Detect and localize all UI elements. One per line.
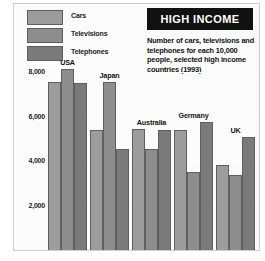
bar-germany-televisions [187, 172, 200, 250]
bar-japan-televisions [103, 82, 116, 250]
bar-usa-telephones [74, 83, 87, 250]
bar-uk-cars [216, 165, 229, 250]
bar-australia-televisions [145, 149, 158, 250]
bar-japan-telephones [116, 149, 129, 250]
bar-germany-cars [174, 130, 187, 250]
bar-uk-telephones [242, 137, 255, 250]
bar-australia-cars [132, 129, 145, 250]
category-label-germany: Germany [166, 111, 221, 120]
bar-germany-telephones [200, 122, 213, 250]
category-label-uk: UK [208, 126, 263, 135]
bar-australia-telephones [158, 130, 171, 250]
bar-japan-cars [90, 130, 103, 250]
bar-usa-cars [48, 82, 61, 250]
bar-usa-televisions [61, 69, 74, 250]
category-label-japan: Japan [82, 71, 137, 80]
bar-uk-televisions [229, 175, 242, 250]
plot-area: 2,0004,0006,0008,000 USAJapanAustraliaGe… [14, 4, 259, 250]
category-label-usa: USA [40, 58, 95, 67]
chart-container: Cars Televisions Telephones HIGH INCOME … [0, 0, 265, 261]
